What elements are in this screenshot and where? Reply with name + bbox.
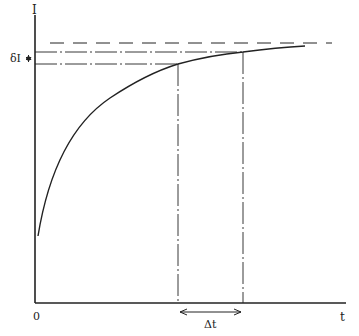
origin-label: 0 — [33, 310, 40, 323]
saturation-curve — [38, 46, 305, 236]
axes — [35, 15, 346, 303]
delta-i-label: δI — [10, 52, 21, 65]
current-vs-time-diagram: I t 0 δI Δt — [0, 0, 359, 336]
y-axis-label: I — [32, 3, 37, 17]
x-axis-label: t — [340, 310, 345, 324]
diagram-canvas: I t 0 δI Δt — [0, 0, 359, 336]
delta-t-label: Δt — [204, 318, 217, 331]
